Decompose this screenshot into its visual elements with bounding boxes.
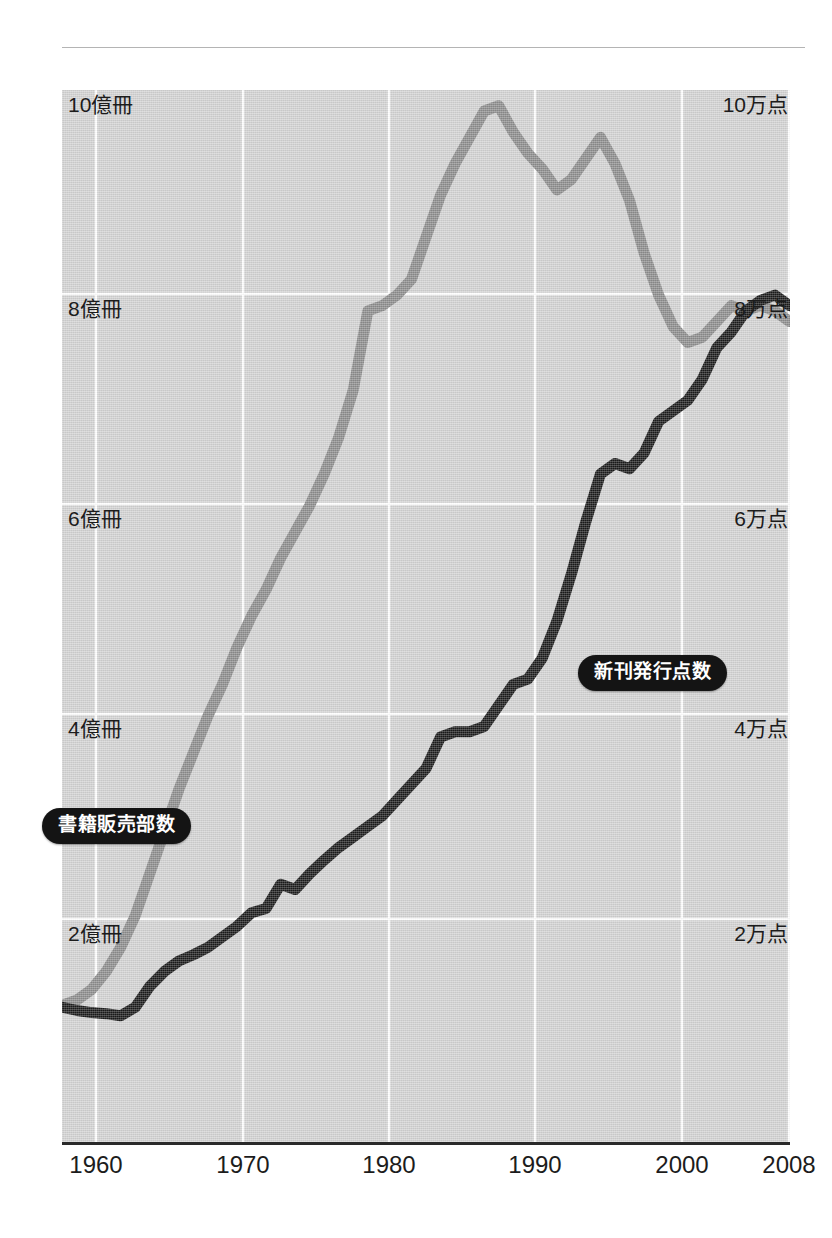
y-tick-right-10: 10万点 — [723, 94, 788, 115]
chart-figure: 10億冊 8億冊 6億冊 4億冊 2億冊 10万点 8万点 6万点 4万点 2万… — [0, 0, 832, 1238]
callout-titles: 新刊発行点数 — [578, 655, 727, 691]
y-tick-right-4: 4万点 — [734, 718, 788, 739]
x-tick-1960: 1960 — [69, 1152, 122, 1178]
x-tick-1970: 1970 — [216, 1152, 269, 1178]
y-tick-left-4: 4億冊 — [68, 718, 122, 739]
top-divider-rule — [62, 47, 805, 48]
y-tick-left-2: 2億冊 — [68, 923, 122, 944]
x-tick-1980: 1980 — [362, 1152, 415, 1178]
x-tick-1990: 1990 — [508, 1152, 561, 1178]
x-tick-2000: 2000 — [655, 1152, 708, 1178]
y-tick-right-2: 2万点 — [734, 923, 788, 944]
series-lines — [62, 90, 790, 1142]
y-tick-left-10: 10億冊 — [68, 94, 133, 115]
x-tick-2008: 2008 — [762, 1152, 815, 1178]
y-tick-right-8: 8万点 — [734, 298, 788, 319]
series-line-sales — [63, 106, 790, 1005]
plot-area — [62, 90, 790, 1142]
callout-sales: 書籍販売部数 — [42, 808, 191, 844]
y-tick-left-8: 8億冊 — [68, 298, 122, 319]
x-axis-line — [62, 1142, 790, 1145]
y-tick-left-6: 6億冊 — [68, 508, 122, 529]
y-tick-right-6: 6万点 — [734, 508, 788, 529]
